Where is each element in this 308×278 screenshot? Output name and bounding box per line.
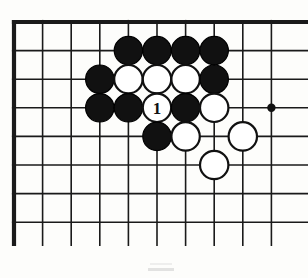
white-stone (143, 65, 171, 93)
stone-disc (171, 65, 199, 93)
stone-disc (114, 65, 142, 93)
black-stone (143, 36, 171, 64)
white-stone (200, 94, 228, 122)
stone-disc (229, 122, 257, 150)
stone-disc (171, 36, 199, 64)
black-stone (86, 65, 114, 93)
black-stone (171, 36, 199, 64)
go-board: 1 (0, 0, 308, 278)
black-stone (114, 36, 142, 64)
stone-disc (200, 36, 228, 64)
white-stone (229, 122, 257, 150)
stone-disc (171, 122, 199, 150)
black-stone (114, 94, 142, 122)
white-stone: 1 (143, 94, 171, 122)
stone-disc (200, 151, 228, 179)
black-stone (200, 36, 228, 64)
stone-disc (86, 65, 114, 93)
black-stone (200, 65, 228, 93)
stone-disc (171, 94, 199, 122)
go-diagram: 1 (0, 0, 308, 278)
black-stone (171, 94, 199, 122)
white-stone (114, 65, 142, 93)
stone-disc (200, 94, 228, 122)
stone-disc (143, 65, 171, 93)
board-star-points (267, 104, 275, 112)
white-stone (171, 65, 199, 93)
stone-disc (86, 94, 114, 122)
stone-disc (114, 36, 142, 64)
white-stone (171, 122, 199, 150)
stone-disc (114, 94, 142, 122)
white-stone (200, 151, 228, 179)
star-point-icon (267, 104, 275, 112)
stone-disc (200, 65, 228, 93)
black-stone (143, 122, 171, 150)
black-stone (86, 94, 114, 122)
stone-disc (143, 36, 171, 64)
stone-disc (143, 122, 171, 150)
move-number-label: 1 (153, 99, 162, 118)
